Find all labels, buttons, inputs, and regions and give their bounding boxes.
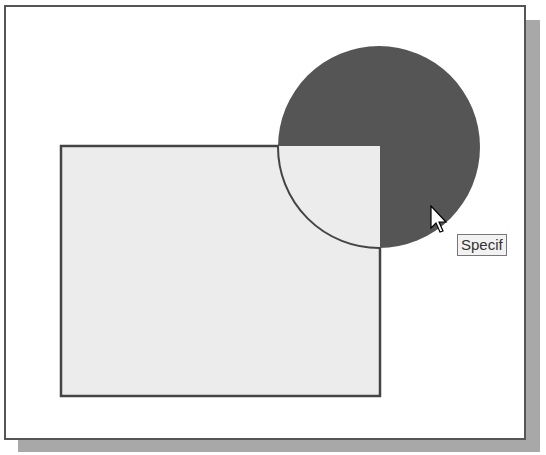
drawing-canvas[interactable] — [6, 7, 524, 438]
drawing-viewport[interactable]: Specif — [4, 5, 526, 440]
command-tooltip: Specif — [457, 234, 507, 256]
